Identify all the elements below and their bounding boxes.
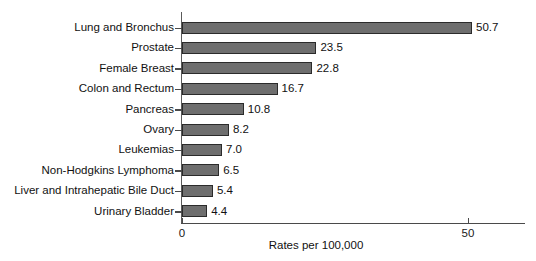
category-tick [175,191,182,192]
bar [182,144,222,156]
bar-row: Prostate23.5 [0,38,536,57]
bar [182,205,207,217]
bar-value-label: 8.2 [233,122,249,137]
x-tick [182,218,183,224]
category-label: Female Breast [99,61,174,76]
category-label: Lung and Bronchus [74,20,174,35]
bar-chart: Lung and Bronchus50.7Prostate23.5Female … [0,0,536,261]
category-tick [175,130,182,131]
bar-row: Ovary8.2 [0,120,536,139]
bar-row: Liver and Intrahepatic Bile Duct5.4 [0,181,536,200]
bar-row: Lung and Bronchus50.7 [0,18,536,37]
category-label: Ovary [143,122,174,137]
bar-value-label: 22.8 [316,61,338,76]
bar [182,22,472,34]
category-label: Non-Hodgkins Lymphoma [41,163,174,178]
category-tick [175,109,182,110]
bar [182,62,312,74]
category-label: Colon and Rectum [79,81,174,96]
bar-row: Leukemias7.0 [0,140,536,159]
category-label: Urinary Bladder [94,204,174,219]
category-label: Liver and Intrahepatic Bile Duct [14,183,174,198]
x-axis-title: Rates per 100,000 [0,238,536,252]
bar-row: Colon and Rectum16.7 [0,79,536,98]
bar-row: Female Breast22.8 [0,59,536,78]
bar-value-label: 23.5 [320,40,342,55]
bar-value-label: 10.8 [248,102,270,117]
category-tick [175,68,182,69]
category-tick [175,211,182,212]
x-axis-line [181,223,525,224]
bar [182,185,213,197]
bar [182,103,244,115]
bar-value-label: 50.7 [476,20,498,35]
x-tick [468,218,469,224]
bar-value-label: 5.4 [217,183,233,198]
category-tick [175,170,182,171]
bar [182,42,316,54]
category-label: Pancreas [125,102,174,117]
bar-value-label: 4.4 [211,204,227,219]
category-tick [175,89,182,90]
bar-value-label: 7.0 [226,142,242,157]
bar [182,83,278,95]
bar-row: Pancreas10.8 [0,100,536,119]
bar [182,164,219,176]
category-tick [175,48,182,49]
category-tick [175,28,182,29]
bar-value-label: 16.7 [282,81,304,96]
category-tick [175,150,182,151]
category-label: Leukemias [118,142,174,157]
bar-row: Urinary Bladder4.4 [0,202,536,221]
category-label: Prostate [131,40,174,55]
bar-value-label: 6.5 [223,163,239,178]
bar [182,124,229,136]
bar-row: Non-Hodgkins Lymphoma6.5 [0,161,536,180]
